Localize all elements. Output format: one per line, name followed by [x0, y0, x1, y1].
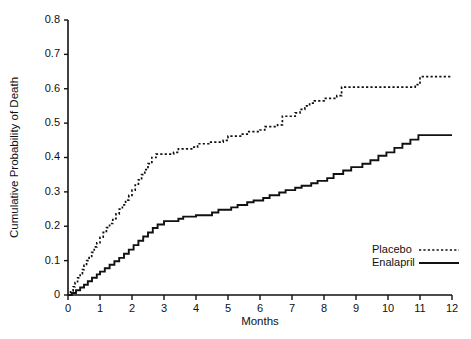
x-tick-label: 2: [129, 302, 135, 314]
x-axis-ticks: 0123456789101112: [65, 295, 458, 314]
y-tick-label: 0.1: [45, 254, 60, 266]
series-line-enalapril: [68, 135, 452, 295]
y-tick-label: 0.2: [45, 219, 60, 231]
y-axis-ticks: 00.10.20.30.40.50.60.70.8: [45, 13, 68, 300]
y-axis-group: 00.10.20.30.40.50.60.70.8: [45, 13, 68, 300]
y-tick-label: 0: [54, 288, 60, 300]
legend-label-placebo: Placebo: [372, 243, 412, 255]
x-tick-label: 6: [257, 302, 263, 314]
x-tick-label: 0: [65, 302, 71, 314]
x-tick-label: 11: [414, 302, 425, 314]
y-axis-title: Cumulative Probability of Death: [8, 77, 20, 238]
x-tick-label: 4: [193, 302, 199, 314]
x-axis-group: 0123456789101112: [65, 295, 458, 314]
y-tick-label: 0.6: [45, 82, 60, 94]
x-tick-label: 3: [161, 302, 167, 314]
chart-legend: PlaceboEnalapril: [372, 243, 459, 268]
y-tick-label: 0.7: [45, 47, 60, 59]
x-tick-label: 10: [382, 302, 394, 314]
x-tick-label: 5: [225, 302, 231, 314]
x-tick-label: 8: [321, 302, 327, 314]
x-tick-label: 7: [289, 302, 295, 314]
survival-chart: 00.10.20.30.40.50.60.70.8 01234567891011…: [0, 0, 471, 339]
y-tick-label: 0.4: [45, 150, 60, 162]
x-tick-label: 1: [97, 302, 103, 314]
y-tick-label: 0.8: [45, 13, 60, 25]
x-tick-label: 12: [446, 302, 458, 314]
legend-label-enalapril: Enalapril: [372, 256, 415, 268]
chart-container: 00.10.20.30.40.50.60.70.8 01234567891011…: [0, 0, 471, 339]
x-axis-title: Months: [241, 315, 279, 327]
y-tick-label: 0.5: [45, 116, 60, 128]
x-tick-label: 9: [353, 302, 359, 314]
y-tick-label: 0.3: [45, 185, 60, 197]
